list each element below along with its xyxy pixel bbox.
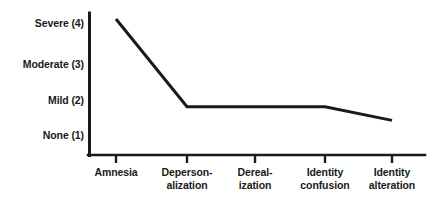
- x-tick-label-identity-alteration: Identity alteration: [344, 166, 437, 191]
- x-axis-tick-labels: Amnesia Deperson- alization Dereal- izat…: [0, 0, 437, 208]
- x-tick-label-identity-alteration-line-2: alteration: [344, 179, 437, 192]
- x-tick-label-identity-alteration-line-1: Identity: [344, 166, 437, 179]
- line-chart: Severe (4) Moderate (3) Mild (2) None (1…: [0, 0, 437, 208]
